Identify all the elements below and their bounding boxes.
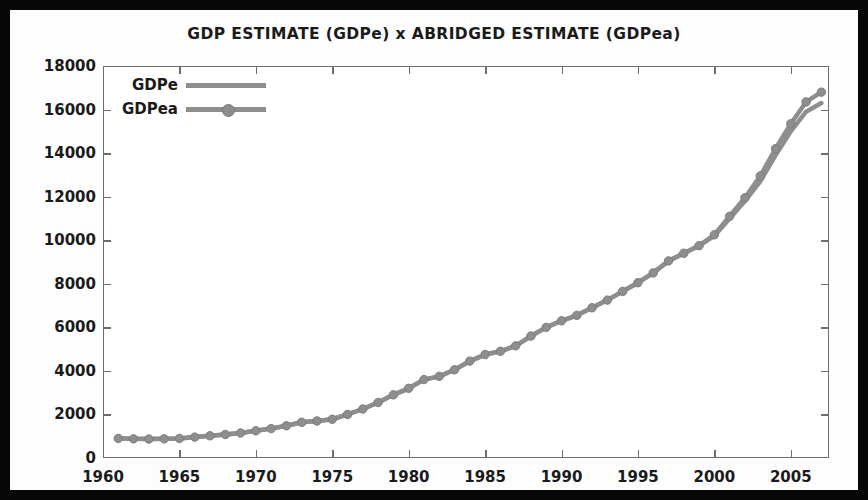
data-point-marker bbox=[404, 384, 412, 392]
data-point-marker bbox=[756, 172, 764, 180]
x-tick-label: 2000 bbox=[674, 468, 754, 486]
data-point-marker bbox=[618, 287, 626, 295]
data-point-marker bbox=[359, 405, 367, 413]
legend-entry-gdpea: GDPea bbox=[112, 98, 272, 120]
data-point-marker bbox=[588, 304, 596, 312]
data-point-marker bbox=[435, 372, 443, 380]
x-tick-label: 1985 bbox=[445, 468, 525, 486]
data-point-marker bbox=[817, 88, 825, 96]
series-line-gdpea bbox=[118, 92, 821, 439]
x-tick-label: 1970 bbox=[216, 468, 296, 486]
x-tick-label: 1995 bbox=[598, 468, 678, 486]
data-point-marker bbox=[191, 433, 199, 441]
data-point-marker bbox=[802, 98, 810, 106]
data-point-marker bbox=[511, 342, 519, 350]
data-point-marker bbox=[542, 323, 550, 331]
data-point-marker bbox=[206, 432, 214, 440]
legend-label-gdpe: GDPe bbox=[112, 74, 178, 96]
data-point-marker bbox=[725, 212, 733, 220]
data-point-marker bbox=[527, 332, 535, 340]
data-point-marker bbox=[466, 357, 474, 365]
data-point-marker bbox=[741, 194, 749, 202]
data-point-marker bbox=[664, 257, 672, 265]
data-point-marker bbox=[573, 311, 581, 319]
legend-entry-gdpe: GDPe bbox=[112, 74, 272, 96]
x-tick-label: 2005 bbox=[751, 468, 831, 486]
legend-circle-marker-icon bbox=[222, 104, 235, 117]
data-point-marker bbox=[557, 317, 565, 325]
data-point-marker bbox=[420, 375, 428, 383]
data-point-marker bbox=[114, 434, 122, 442]
chart-screenshot: GDP ESTIMATE (GDPe) x ABRIDGED ESTIMATE … bbox=[0, 0, 868, 500]
data-point-marker bbox=[267, 424, 275, 432]
data-point-marker bbox=[649, 269, 657, 277]
x-tick-label: 1960 bbox=[63, 468, 143, 486]
data-point-marker bbox=[481, 350, 489, 358]
x-tick-label: 1990 bbox=[522, 468, 602, 486]
data-point-marker bbox=[695, 241, 703, 249]
series-line-gdpe bbox=[118, 103, 821, 439]
data-point-marker bbox=[221, 430, 229, 438]
data-point-marker bbox=[710, 231, 718, 239]
data-point-marker bbox=[771, 145, 779, 153]
data-point-marker bbox=[175, 434, 183, 442]
data-point-marker bbox=[374, 398, 382, 406]
data-point-marker bbox=[496, 347, 504, 355]
data-point-marker bbox=[297, 418, 305, 426]
x-tick-label: 1980 bbox=[369, 468, 449, 486]
legend-line-icon bbox=[186, 83, 266, 88]
data-point-marker bbox=[160, 435, 168, 443]
legend-swatch-gdpe bbox=[186, 74, 266, 96]
data-point-marker bbox=[236, 429, 244, 437]
legend-swatch-gdpea bbox=[186, 98, 266, 120]
legend-label-gdpea: GDPea bbox=[112, 98, 178, 120]
data-point-marker bbox=[603, 296, 611, 304]
data-point-marker bbox=[343, 410, 351, 418]
data-point-marker bbox=[634, 278, 642, 286]
data-point-marker bbox=[252, 427, 260, 435]
data-point-marker bbox=[787, 120, 795, 128]
data-point-marker bbox=[129, 435, 137, 443]
data-point-marker bbox=[145, 435, 153, 443]
data-point-marker bbox=[282, 422, 290, 430]
x-tick-label: 1975 bbox=[292, 468, 372, 486]
chart-legend: GDPe GDPea bbox=[112, 74, 272, 122]
plot-area bbox=[103, 66, 829, 458]
series-lines bbox=[103, 66, 829, 458]
data-point-marker bbox=[450, 366, 458, 374]
data-point-marker bbox=[680, 249, 688, 257]
data-point-marker bbox=[328, 415, 336, 423]
data-point-marker bbox=[313, 417, 321, 425]
data-point-marker bbox=[389, 391, 397, 399]
x-tick-label: 1965 bbox=[139, 468, 219, 486]
